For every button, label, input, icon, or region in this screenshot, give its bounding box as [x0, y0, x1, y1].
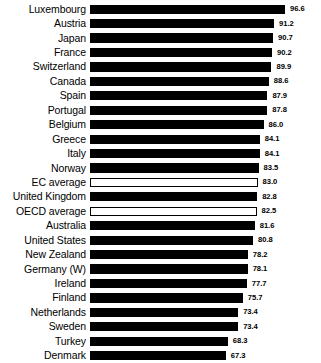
bar-value-label: 68.3: [233, 336, 248, 346]
chart-row: Japan90.7: [0, 31, 321, 45]
category-label: Netherlands: [0, 307, 90, 318]
bar: [90, 62, 271, 71]
bar: [90, 149, 260, 158]
category-label: Austria: [0, 18, 90, 29]
chart-row: Finland75.7: [0, 291, 321, 305]
bar: [90, 236, 253, 245]
bar-track: 90.2: [90, 45, 321, 59]
bar-track: 82.5: [90, 204, 321, 218]
chart-row: Greece84.1: [0, 132, 321, 146]
category-label: Portugal: [0, 105, 90, 116]
bar-value-label: 75.7: [248, 293, 263, 303]
bar: [90, 19, 274, 28]
bar: [90, 135, 260, 144]
category-label: Finland: [0, 292, 90, 303]
chart-row: Sweden73.4: [0, 320, 321, 334]
chart-row: Germany (W)78.1: [0, 262, 321, 276]
bar-track: 73.4: [90, 320, 321, 334]
chart-row: France90.2: [0, 45, 321, 59]
chart-row: New Zealand78.2: [0, 247, 321, 261]
chart-row: Norway83.5: [0, 161, 321, 175]
bar: [90, 106, 267, 115]
bar: [90, 264, 248, 273]
chart-rows: Luxembourg96.6Austria91.2Japan90.7France…: [0, 2, 321, 363]
category-label: Italy: [0, 148, 90, 159]
bar-value-label: 86.0: [269, 120, 284, 130]
category-label: United States: [0, 235, 90, 246]
bar-track: 78.2: [90, 247, 321, 261]
bar: [90, 192, 257, 201]
category-label: Ireland: [0, 278, 90, 289]
bar-track: 90.7: [90, 31, 321, 45]
category-label: United Kingdom: [0, 191, 90, 202]
bar-value-label: 73.4: [243, 322, 258, 332]
chart-row: Luxembourg96.6: [0, 2, 321, 16]
bar-value-label: 67.3: [231, 351, 246, 361]
category-label: Canada: [0, 76, 90, 87]
bar-value-label: 80.8: [258, 235, 273, 245]
bar-track: 83.5: [90, 161, 321, 175]
chart-row: United Kingdom82.8: [0, 190, 321, 204]
bar-hollow: [90, 207, 257, 216]
category-label: Norway: [0, 163, 90, 174]
bar-track: 80.8: [90, 233, 321, 247]
bar-value-label: 87.8: [272, 105, 287, 115]
category-label: Turkey: [0, 336, 90, 347]
chart-row: Turkey68.3: [0, 334, 321, 348]
category-label: Switzerland: [0, 61, 90, 72]
bar-value-label: 83.0: [263, 177, 278, 187]
bar: [90, 91, 267, 100]
bar: [90, 77, 269, 86]
bar-track: 84.1: [90, 132, 321, 146]
category-label: Sweden: [0, 321, 90, 332]
bar-track: 86.0: [90, 118, 321, 132]
bar-value-label: 96.6: [290, 4, 305, 14]
bar-value-label: 82.8: [262, 192, 277, 202]
bar-value-label: 73.4: [243, 307, 258, 317]
bar-track: 78.1: [90, 262, 321, 276]
bar-value-label: 91.2: [279, 19, 294, 29]
bar-value-label: 88.6: [274, 76, 289, 86]
chart-row: United States80.8: [0, 233, 321, 247]
bar-value-label: 77.7: [252, 279, 267, 289]
bar-value-label: 82.5: [262, 206, 277, 216]
bar: [90, 337, 228, 346]
chart-row: OECD average82.5: [0, 204, 321, 218]
bar-track: 81.6: [90, 219, 321, 233]
bar-hollow: [90, 178, 258, 187]
bar-track: 82.8: [90, 190, 321, 204]
category-label: Luxembourg: [0, 4, 90, 15]
chart-row: Belgium86.0: [0, 118, 321, 132]
bar-value-label: 89.9: [276, 62, 291, 72]
category-label: France: [0, 47, 90, 58]
bar-track: 68.3: [90, 334, 321, 348]
bar-track: 67.3: [90, 349, 321, 363]
bar-value-label: 81.6: [260, 221, 275, 231]
chart-row: Canada88.6: [0, 74, 321, 88]
bar-value-label: 90.7: [278, 33, 293, 43]
bar-track: 84.1: [90, 146, 321, 160]
bar-value-label: 78.2: [253, 250, 268, 260]
bar-track: 88.6: [90, 74, 321, 88]
bar: [90, 120, 264, 129]
chart-row: Denmark67.3: [0, 349, 321, 363]
category-label: Greece: [0, 134, 90, 145]
category-label: Spain: [0, 90, 90, 101]
category-label: Belgium: [0, 119, 90, 130]
bar: [90, 250, 248, 259]
category-label: New Zealand: [0, 249, 90, 260]
chart-row: Portugal87.8: [0, 103, 321, 117]
bar-value-label: 84.1: [265, 149, 280, 159]
category-label: Japan: [0, 33, 90, 44]
chart-row: Australia81.6: [0, 219, 321, 233]
bar-track: 75.7: [90, 291, 321, 305]
bar: [90, 48, 272, 57]
chart-row: EC average83.0: [0, 175, 321, 189]
chart-row: Austria91.2: [0, 16, 321, 30]
chart-row: Italy84.1: [0, 146, 321, 160]
chart-row: Ireland77.7: [0, 276, 321, 290]
bar: [90, 163, 259, 172]
category-label: Australia: [0, 220, 90, 231]
bar: [90, 279, 247, 288]
